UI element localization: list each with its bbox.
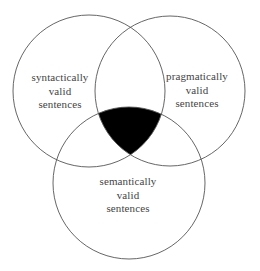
- syntactic-set-label: syntactically valid sentences: [15, 71, 105, 112]
- label-line: sentences: [83, 202, 173, 216]
- label-line: sentences: [15, 98, 105, 112]
- label-line: valid: [15, 85, 105, 99]
- semantic-set-label: semantically valid sentences: [83, 175, 173, 216]
- label-line: syntactically: [15, 71, 105, 85]
- label-line: pragmatically: [152, 70, 242, 84]
- label-line: valid: [83, 189, 173, 203]
- pragmatic-set-label: pragmatically valid sentences: [152, 70, 242, 111]
- venn-diagram: [0, 0, 260, 271]
- label-line: valid: [152, 84, 242, 98]
- label-line: semantically: [83, 175, 173, 189]
- label-line: sentences: [152, 97, 242, 111]
